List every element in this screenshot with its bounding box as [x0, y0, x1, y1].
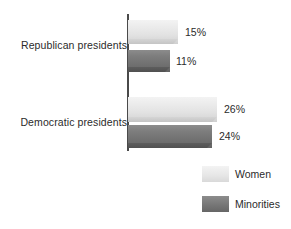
bar-women-democratic-presidents	[128, 97, 217, 122]
bar-minorities-republican-presidents	[128, 50, 170, 72]
value-label-women-republican-presidents: 15%	[185, 27, 206, 38]
bar-minorities-democratic-presidents	[128, 125, 212, 148]
value-label-women-democratic-presidents: 26%	[224, 104, 245, 115]
legend-swatch-women	[202, 166, 229, 182]
bar-bevel-shade	[128, 67, 170, 72]
bar-women-republican-presidents	[128, 20, 178, 44]
value-label-minorities-democratic-presidents: 24%	[219, 131, 240, 142]
bar-bevel-shade	[128, 39, 178, 44]
category-label-republican-presidents: Republican presidents	[21, 40, 127, 51]
bar-chart: Republican presidents Democratic preside…	[0, 0, 291, 229]
bar-bevel-shade	[128, 143, 212, 148]
legend-label-women: Women	[235, 169, 271, 180]
legend-swatch-minorities	[202, 196, 229, 212]
legend-label-minorities: Minorities	[235, 199, 280, 210]
category-label-democratic-presidents: Democratic presidents	[20, 117, 127, 128]
value-label-minorities-republican-presidents: 11%	[176, 56, 196, 67]
bar-bevel-shade	[128, 117, 217, 122]
